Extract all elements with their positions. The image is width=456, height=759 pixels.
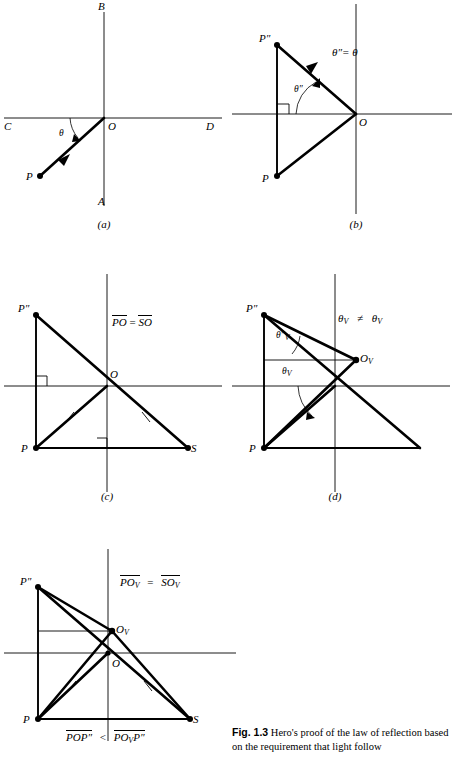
label-ov-base: O [360, 352, 368, 364]
label-c: C [4, 120, 11, 132]
label-o: O [108, 120, 116, 132]
label-o: O [110, 368, 118, 380]
segment-p-o [36, 386, 107, 448]
annotation-theta-inequality: θV ≠ θV [338, 312, 382, 326]
panel-d: P″ P OV θ″V θV θV ≠ θV (d) [228, 270, 456, 500]
label-p: P [26, 170, 33, 182]
label-theta: θ [59, 128, 64, 138]
panel-d-diagram [228, 270, 456, 500]
point-p-dot [261, 445, 267, 451]
annotation-po-equals-so: PO = SO [112, 315, 152, 328]
annotation-sov: SOV [161, 575, 179, 591]
annotation-less-than: < [95, 731, 111, 743]
theta-subscript-v: V [285, 333, 290, 342]
e-left-sub: V [135, 581, 140, 590]
label-ov: OV [360, 352, 373, 366]
label-ov-subscript: V [124, 628, 129, 637]
label-s: S [193, 713, 199, 725]
right-angle-marker [277, 104, 289, 114]
angle-arc-arrowhead [306, 412, 315, 420]
panel-d-label: (d) [315, 490, 355, 502]
label-ov-base: O [116, 623, 124, 635]
segment-ov-s [112, 631, 190, 719]
point-pdprime-dot [33, 312, 39, 318]
label-p: P [23, 713, 30, 725]
figure-number: Fig. 1.3 [232, 726, 268, 738]
d-sub-right: V [377, 317, 382, 326]
d-sub-left: V [343, 317, 348, 326]
panel-b-label: (b) [336, 218, 376, 230]
annotation-povpdprime: POVP″ [114, 730, 145, 746]
panel-a-label: (a) [84, 218, 124, 230]
point-ov-dot [109, 628, 115, 634]
label-a: A [98, 195, 105, 207]
segment-p-o [38, 653, 108, 719]
annot-theta-right: θV [372, 312, 382, 324]
annotation-theta-equality: θ″= θ [332, 46, 358, 58]
panel-c-label: (c) [87, 490, 127, 502]
theta-dprime-text: θ″ [276, 330, 285, 340]
annot-theta-left: θV [338, 312, 348, 324]
label-pdprime: P″ [20, 575, 31, 587]
theta-subscript-v2: V [287, 369, 292, 378]
panel-c-diagram [0, 270, 228, 500]
right-angle-marker-base [97, 438, 107, 448]
angle-arc-arrowhead [72, 134, 81, 142]
annotation-po: PO [112, 315, 127, 328]
label-pdprime: P″ [18, 302, 29, 314]
label-d: D [206, 120, 214, 132]
e-right-sub: V [175, 581, 180, 590]
point-pdprime-dot [274, 42, 280, 48]
label-ov-subscript: V [368, 357, 373, 366]
annotation-equals: = [129, 316, 135, 328]
ray-p-to-o [277, 114, 356, 176]
annotation-pov: POV [120, 575, 140, 591]
label-ov: OV [116, 623, 129, 637]
label-theta-dprime: θ″ [294, 84, 303, 94]
annotation-equals: = [142, 576, 158, 588]
label-s: S [191, 442, 197, 454]
label-theta-v-dprime: θ″V [276, 330, 290, 342]
panel-e: P″ P S OV O POV = SOV POP″ < POVP″ [0, 545, 240, 759]
label-b: B [98, 0, 105, 12]
right-angle-marker-upper [36, 376, 47, 386]
annotation-popdprime: POP″ [66, 730, 92, 743]
label-theta-v: θV [282, 366, 292, 378]
label-o: O [112, 657, 120, 669]
label-o: O [359, 116, 367, 128]
annot-neq: ≠ [351, 312, 369, 324]
e-bot-right-tail: P″ [133, 731, 144, 743]
e-bot-right-text: PO [114, 731, 129, 743]
panel-a-diagram [0, 0, 228, 228]
label-p: P [249, 442, 256, 454]
label-pdprime: P″ [246, 302, 257, 314]
point-p-dot [274, 173, 280, 179]
point-p-dot [37, 173, 43, 179]
figure-caption: Fig. 1.3 Hero's proof of the law of refl… [232, 726, 454, 754]
panel-b: P″ P O θ″ θ″= θ (b) [228, 0, 456, 228]
point-ov-dot [353, 357, 359, 363]
e-right-text: SO [161, 576, 174, 588]
annotation-path-inequality: POP″ < POVP″ [66, 730, 145, 746]
point-p-dot [33, 445, 39, 451]
point-pdprime-dot [261, 312, 267, 318]
label-p: P [21, 442, 28, 454]
panel-c: P″ P S O PO = SO (c) [0, 270, 228, 500]
segment-pdprime-ov [38, 587, 112, 631]
annotation-so: SO [138, 315, 151, 328]
annotation-pov-equals-sov: POV = SOV [120, 575, 180, 591]
point-o-dot [105, 650, 110, 655]
panel-a: B A C D O P θ (a) [0, 0, 228, 228]
label-pdprime: P″ [259, 32, 270, 44]
e-left-text: PO [120, 576, 135, 588]
segment-ov-p [38, 631, 112, 719]
point-p-dot [35, 716, 41, 722]
label-p: P [262, 172, 269, 184]
point-pdprime-dot [35, 584, 41, 590]
